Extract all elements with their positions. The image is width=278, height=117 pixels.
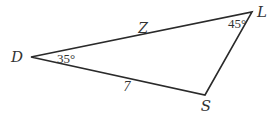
angle-label-l: 45°: [228, 16, 246, 31]
vertex-label-l: L: [256, 3, 267, 21]
triangle-diagram: D L S 35° 45° Z 7: [0, 0, 278, 117]
side-label-dl: Z: [137, 20, 148, 36]
vertex-label-d: D: [10, 48, 23, 66]
vertex-label-s: S: [201, 97, 211, 115]
side-label-ds: 7: [124, 79, 132, 94]
angle-label-d: 35°: [57, 51, 75, 66]
